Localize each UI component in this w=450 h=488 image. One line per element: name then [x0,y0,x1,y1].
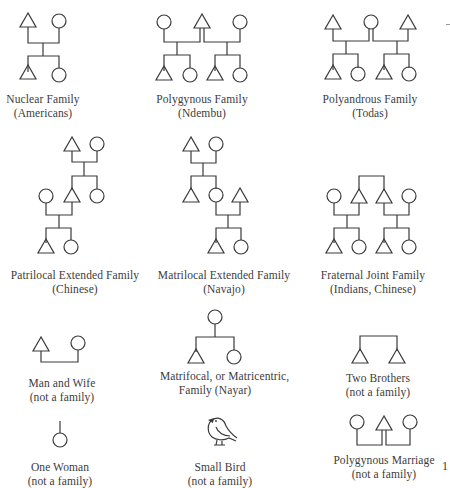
caption-subtitle: (Navajo) [154,282,294,296]
caption-title: Patrilocal Extended Family [5,268,145,282]
caption-subtitle: (not a family) [330,467,438,481]
fraternal-joint-family-diagram [326,176,416,254]
caption-subtitle: (not a family) [180,474,260,488]
polygynous-family-diagram [156,14,247,82]
polygynous-marriage-diagram [350,415,417,445]
caption-subtitle: (Indians, Chinese) [313,282,433,296]
caption-matrilocal-extended-family: Matrilocal Extended Family (Navajo) [154,268,294,296]
caption-title: Fraternal Joint Family [313,268,433,282]
caption-man-and-wife: Man and Wife (not a family) [20,376,104,404]
caption-title: Man and Wife [20,376,104,390]
caption-subtitle: (not a family) [20,474,100,488]
matrilocal-extended-family-diagram [183,137,248,254]
caption-subtitle: (Chinese) [5,282,145,296]
polyandrous-family-diagram [325,15,416,81]
caption-title: Polyandrous Family [320,92,420,106]
caption-two-brothers: Two Brothers (not a family) [336,371,420,399]
caption-subtitle: (not a family) [336,385,420,399]
caption-title: Matrifocal, or Matricentric, [160,369,270,383]
two-brothers-diagram [352,336,405,363]
caption-title: Small Bird [180,460,260,474]
caption-polygynous-family: Polygynous Family (Ndembu) [152,92,252,120]
caption-title: Polygynous Marriage [330,453,438,467]
caption-title: One Woman [20,460,100,474]
caption-small-bird: Small Bird (not a family) [180,460,260,488]
caption-subtitle: Family (Nayar) [160,383,270,397]
man-and-wife-diagram [33,336,85,362]
caption-subtitle: (Ndembu) [152,106,252,120]
matrifocal-family-diagram [188,310,241,364]
caption-one-woman: One Woman (not a family) [20,460,100,488]
caption-matrifocal-family: Matrifocal, or Matricentric, Family (Nay… [160,369,270,397]
caption-title: Matrilocal Extended Family [154,268,294,282]
caption-nuclear-family: Nuclear Family (Americans) [3,92,83,120]
small-bird-icon [208,418,237,445]
edge-mark [446,24,450,25]
caption-polygynous-marriage: Polygynous Marriage (not a family) [330,453,438,481]
caption-patrilocal-extended-family: Patrilocal Extended Family (Chinese) [5,268,145,296]
page-number: 1 [442,459,448,474]
patrilocal-extended-family-diagram [38,137,104,254]
caption-subtitle: (not a family) [20,390,104,404]
caption-polyandrous-family: Polyandrous Family (Todas) [320,92,420,120]
nuclear-family-diagram [20,13,66,82]
one-woman-diagram [53,421,67,447]
caption-title: Two Brothers [336,371,420,385]
caption-title: Polygynous Family [152,92,252,106]
caption-subtitle: (Americans) [3,106,83,120]
caption-title: Nuclear Family [3,92,83,106]
caption-subtitle: (Todas) [320,106,420,120]
caption-fraternal-joint-family: Fraternal Joint Family (Indians, Chinese… [313,268,433,296]
